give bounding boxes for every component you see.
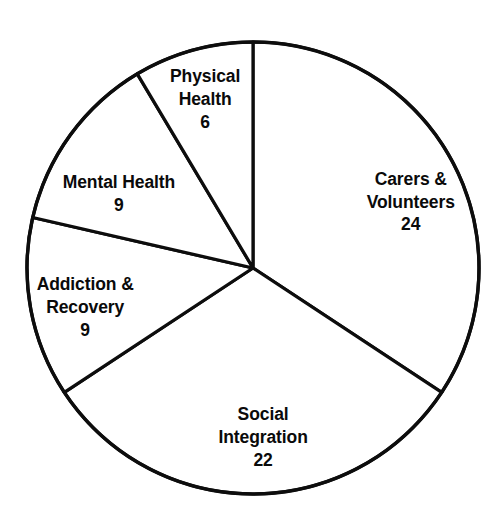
pie-slice-label-line2: Health <box>179 89 232 109</box>
pie-slice-label-line1: Social <box>238 404 289 424</box>
pie-slice-label: PhysicalHealth6 <box>170 65 240 133</box>
pie-slice-value: 22 <box>218 449 307 472</box>
pie-slice-label-line2: Recovery <box>46 297 124 317</box>
pie-slice-label-line1: Carers & <box>375 169 447 189</box>
pie-slice-label-line2: Integration <box>218 427 307 447</box>
pie-slice-value: 9 <box>37 319 134 342</box>
pie-slice-label-line1: Mental Health <box>63 172 175 192</box>
pie-slice-label: Carers &Volunteers24 <box>367 168 455 236</box>
pie-slice-value: 24 <box>367 213 455 236</box>
pie-slice-label: Mental Health9 <box>63 171 175 217</box>
pie-slice-label-line2: Volunteers <box>367 192 455 212</box>
pie-slice-label: SocialIntegration22 <box>218 403 307 471</box>
pie-slice-label-line1: Physical <box>170 66 240 86</box>
pie-chart: Carers &Volunteers24SocialIntegration22A… <box>0 0 504 530</box>
pie-slice-value: 9 <box>63 194 175 217</box>
pie-slice-label: Addiction &Recovery9 <box>37 273 134 341</box>
pie-slice-value: 6 <box>170 110 240 133</box>
pie-slice-label-line1: Addiction & <box>37 274 134 294</box>
